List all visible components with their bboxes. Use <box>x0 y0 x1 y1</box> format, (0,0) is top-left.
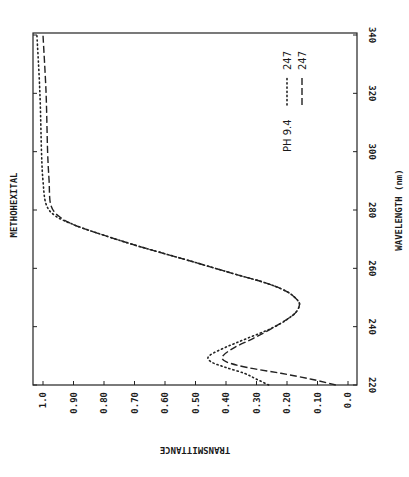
y-tick-label: 0.90 <box>69 392 79 414</box>
legend-label-dashed: 247 <box>297 51 308 70</box>
y-axis-title: TRANSMITTANCE <box>160 445 230 455</box>
y-tick-label: 0.10 <box>313 392 323 414</box>
legend-label-dotted: 247 <box>282 51 293 70</box>
y-tick-label: 1.0 <box>38 392 48 408</box>
x-tick-label: 280 <box>367 202 377 218</box>
wavelength-tick-labels: 220240260280300320340 <box>367 27 377 393</box>
y-tick-label: 0.20 <box>282 392 292 414</box>
chart-title: METHOHEXITAL <box>9 172 19 238</box>
x-tick-label: 220 <box>367 377 377 393</box>
tick-marks <box>33 35 357 385</box>
legend: PH 9.4 247 247 <box>282 51 308 152</box>
x-tick-label: 340 <box>367 27 377 43</box>
y-tick-label: 0.0 <box>343 392 353 408</box>
series-dotted-line <box>37 35 300 385</box>
x-tick-label: 260 <box>367 260 377 276</box>
y-tick-label: 0.80 <box>99 392 109 414</box>
y-tick-label: 0.40 <box>221 392 231 414</box>
series-dashed-line <box>43 35 336 385</box>
legend-header: PH 9.4 <box>282 119 293 152</box>
x-tick-label: 240 <box>367 319 377 335</box>
plot-frame <box>33 33 357 385</box>
x-axis-title: WAVELENGTH (nm) <box>394 169 404 250</box>
x-tick-label: 320 <box>367 85 377 101</box>
y-tick-label: 0.60 <box>160 392 170 414</box>
y-tick-label: 0.50 <box>191 392 201 414</box>
y-tick-label: 0.70 <box>130 392 140 414</box>
x-tick-label: 300 <box>367 144 377 160</box>
chart: 1.00.900.800.700.600.500.400.300.200.100… <box>0 0 409 477</box>
y-tick-label: 0.30 <box>252 392 262 414</box>
transmittance-tick-labels: 1.00.900.800.700.600.500.400.300.200.100… <box>38 392 353 414</box>
